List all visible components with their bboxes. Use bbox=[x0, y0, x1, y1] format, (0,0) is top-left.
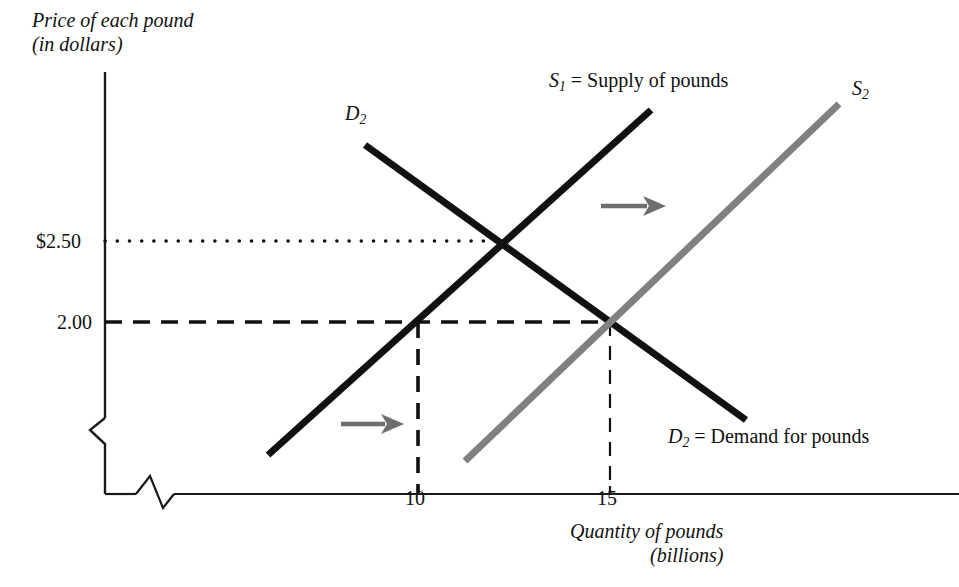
x-tick-label-15: 15 bbox=[597, 486, 617, 510]
supply-curve-s2-label: S2 bbox=[852, 76, 869, 100]
supply-s2-symbol: S bbox=[852, 77, 862, 99]
demand-curve-top-label: D2 bbox=[345, 101, 366, 125]
demand-text: = Demand for pounds bbox=[694, 425, 869, 447]
supply-curve-s2 bbox=[465, 104, 839, 461]
supply-s1-symbol: S bbox=[549, 69, 559, 91]
supply-curve-s1 bbox=[268, 110, 651, 455]
y-axis-title-line1: Price of each pound bbox=[32, 9, 194, 31]
supply-s1-subscript: 1 bbox=[559, 79, 566, 94]
x-axis-title-line1: Quantity of pounds bbox=[570, 520, 723, 542]
supply-curve-s1-label: S1 = Supply of pounds bbox=[549, 68, 728, 92]
y-tick-label-250: $2.50 bbox=[36, 229, 81, 253]
x-axis-break-icon bbox=[136, 476, 174, 508]
y-tick-label-200: 2.00 bbox=[57, 310, 92, 334]
y-axis-title-line2: (in dollars) bbox=[32, 33, 123, 55]
demand-top-symbol: D bbox=[345, 102, 359, 124]
supply-s2-subscript: 2 bbox=[862, 87, 869, 102]
demand-curve-legend-label: D2 = Demand for pounds bbox=[668, 424, 869, 448]
demand-subscript: 2 bbox=[682, 435, 689, 450]
upper-shift-arrow-icon bbox=[601, 196, 666, 216]
y-axis-title: Price of each pound(in dollars) bbox=[32, 8, 194, 57]
x-axis-title-line2: (billions) bbox=[650, 544, 723, 566]
demand-top-subscript: 2 bbox=[359, 112, 366, 127]
lower-shift-arrow-icon bbox=[341, 414, 404, 434]
figure-canvas: Price of each pound(in dollars) Quantity… bbox=[0, 0, 959, 587]
diagram-graphics bbox=[0, 0, 959, 587]
supply-s1-text: = Supply of pounds bbox=[571, 69, 728, 91]
x-axis-title: Quantity of pounds(billions) bbox=[570, 519, 723, 568]
demand-symbol: D bbox=[668, 425, 682, 447]
x-tick-label-10: 10 bbox=[405, 486, 425, 510]
y-axis-break-icon bbox=[90, 418, 105, 458]
